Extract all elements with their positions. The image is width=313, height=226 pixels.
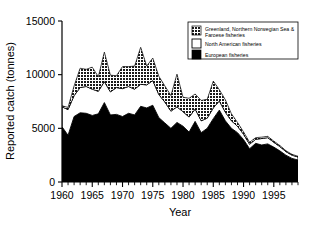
x-tick-label: 1990 [232, 189, 256, 201]
x-tick-label: 1960 [50, 189, 74, 201]
x-tick-label: 1965 [81, 189, 105, 201]
legend-swatch-european [192, 50, 201, 59]
legend-label-north-american: North American fisheries [205, 41, 262, 47]
legend-label-greenland-line2: Faroese fisheries [205, 32, 245, 38]
chart-legend: Greenland, Northern Norwegian Sea & Faro… [188, 22, 298, 59]
legend-swatch-greenland [192, 26, 201, 35]
y-tick-label: 10000 [26, 68, 55, 80]
y-tick-label: 5000 [32, 122, 56, 134]
x-tick-group [62, 182, 298, 187]
x-tick-label: 1980 [171, 189, 195, 201]
stacked-area-chart: 050001000015000 196019651970197519801985… [0, 0, 313, 226]
y-tick-label-group: 050001000015000 [26, 15, 55, 188]
y-axis-title: Reported catch (tonnes) [4, 42, 16, 160]
y-tick-label: 0 [49, 176, 55, 188]
x-tick-label: 1995 [262, 189, 286, 201]
legend-label-european: European fisheries [205, 52, 249, 58]
legend-swatch-north-american [192, 39, 201, 48]
x-tick-label: 1970 [111, 189, 135, 201]
x-axis-title: Year [169, 206, 192, 218]
chart-figure: 050001000015000 196019651970197519801985… [0, 0, 313, 226]
y-tick-label: 15000 [26, 15, 55, 27]
x-tick-label-group: 19601965197019751980198519901995 [50, 189, 285, 201]
x-tick-label: 1985 [202, 189, 226, 201]
x-tick-label: 1975 [141, 189, 165, 201]
